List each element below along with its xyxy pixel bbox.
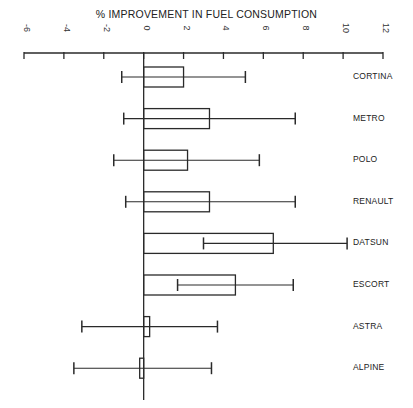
x-tick-label: 4 <box>221 25 231 30</box>
x-tick-label: -4 <box>62 24 72 32</box>
x-tick-label: 12 <box>381 23 391 33</box>
x-tick-label: 8 <box>301 25 311 30</box>
category-label-cortina: CORTINA <box>353 71 393 81</box>
x-tick-label: -6 <box>22 24 32 32</box>
category-label-metro: METRO <box>353 113 385 123</box>
category-label-alpine: ALPINE <box>353 362 384 372</box>
category-label-datsun: DATSUN <box>353 237 389 247</box>
category-label-astra: ASTRA <box>353 321 382 331</box>
x-tick-label: 2 <box>182 25 192 30</box>
x-tick-label: 10 <box>341 23 351 33</box>
chart-plot: -6-4-2024681012 <box>0 0 413 408</box>
category-label-renault: RENAULT <box>353 196 393 206</box>
x-tick-label: 0 <box>142 25 152 30</box>
x-tick-label: -2 <box>102 24 112 32</box>
category-label-polo: POLO <box>353 154 377 164</box>
x-tick-label: 6 <box>261 25 271 30</box>
category-label-escort: ESCORT <box>353 279 389 289</box>
